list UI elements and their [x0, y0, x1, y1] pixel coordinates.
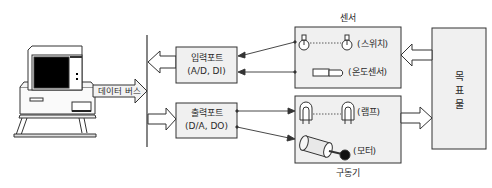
sensor-signal-lines	[238, 41, 296, 75]
temperature-sensor-icon	[313, 69, 343, 76]
temperature-sensor-label: (온도센서)	[348, 67, 387, 78]
bus-to-output-arrow	[148, 108, 176, 130]
target-to-sensor-arrow	[401, 44, 432, 66]
input-to-bus-arrow	[148, 51, 176, 73]
lamp-label: (램프)	[357, 107, 380, 118]
output-port-subtitle: (D/A, DO)	[176, 121, 237, 132]
target-char-3: 물	[452, 98, 466, 111]
input-port-subtitle: (A/D, DI)	[176, 66, 237, 77]
input-port-title: 입력포트	[176, 53, 237, 64]
diagram-canvas	[0, 0, 492, 188]
motor-label: (모터)	[353, 146, 376, 157]
actuator-to-target-arrow	[401, 107, 432, 129]
target-char-1: 목	[452, 70, 466, 83]
target-char-2: 표	[452, 84, 466, 97]
switch-label: (스위치)	[357, 39, 388, 50]
actuator-caption: 구동기	[328, 168, 368, 179]
output-port-title: 출력포트	[176, 108, 237, 119]
computer-icon	[14, 46, 96, 137]
actuator-signal-lines	[236, 108, 295, 141]
sensor-caption: 센서	[331, 13, 365, 24]
data-bus-label: 데이터 버스	[98, 86, 141, 97]
